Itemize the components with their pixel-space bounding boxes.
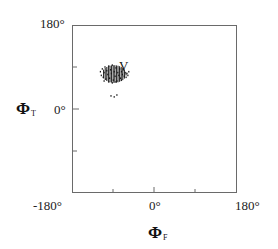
data-point [110,69,111,71]
region-label-v: V [119,58,129,73]
data-point [118,75,119,77]
data-point [104,72,105,74]
data-point [101,75,102,77]
x-tick-label-neg180: -180° [33,199,62,212]
data-point [105,78,106,80]
data-point [124,76,125,78]
data-point [104,66,105,68]
data-point [128,71,129,73]
data-point [116,94,117,96]
data-point [127,75,128,77]
data-point [114,71,115,73]
data-point [104,80,105,82]
y-tick-label-0: 0° [54,103,66,116]
data-point [108,65,109,67]
x-axis-ticks [113,187,195,193]
data-point [126,77,127,79]
data-point [109,77,110,79]
data-point [122,74,123,76]
x-axis-title-symbol: Φ [148,223,162,242]
y-axis-ticks [72,67,79,151]
data-point [121,79,122,81]
y-axis-title-subscript: T [31,109,36,118]
y-axis-title-symbol: Φ [16,99,30,118]
y-axis-title: ΦT [16,100,36,122]
ramachandran-style-plot: V 180° 0° ΦT -180° 0° 180° ΦF [0,0,278,249]
x-tick-label-180: 180° [235,199,260,212]
data-point [110,95,111,97]
data-point [106,70,107,72]
x-axis-title: ΦF [148,224,168,246]
data-point [115,81,116,83]
data-point [113,79,114,81]
data-point [112,82,113,84]
data-point [120,77,121,79]
data-point [112,64,113,66]
data-point [107,74,108,76]
data-point [100,71,101,73]
data-point [102,68,103,70]
data-point [126,73,127,75]
y-tick-label-180: 180° [40,17,65,30]
data-point [115,76,116,78]
data-point [115,67,116,69]
data-point [114,96,115,98]
x-tick-label-0: 0° [149,199,161,212]
x-axis-title-subscript: F [163,233,167,242]
data-point [103,77,104,79]
data-point [111,73,112,75]
data-point [108,81,109,83]
